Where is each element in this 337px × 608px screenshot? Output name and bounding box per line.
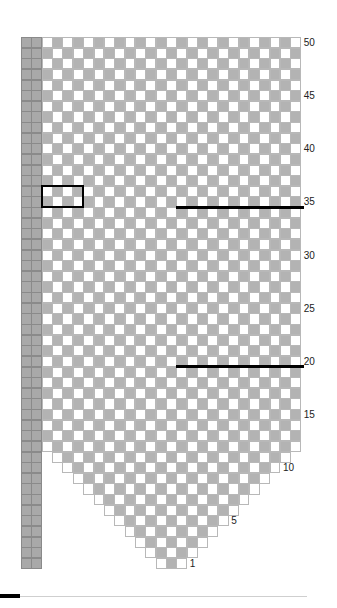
chart-cell — [218, 377, 229, 388]
edge-cell — [21, 441, 32, 452]
chart-cell — [218, 133, 229, 144]
chart-cell — [270, 430, 281, 441]
edge-cell — [21, 473, 32, 484]
chart-cell — [125, 313, 136, 324]
chart-cell — [52, 58, 63, 69]
chart-cell — [42, 420, 53, 431]
chart-cell — [94, 388, 105, 399]
chart-cell — [83, 37, 94, 48]
chart-cell — [114, 239, 125, 250]
chart-cell — [166, 452, 177, 463]
chart-cell — [52, 409, 63, 420]
chart-cell — [135, 228, 146, 239]
chart-cell — [166, 441, 177, 452]
chart-cell — [135, 420, 146, 431]
chart-cell — [166, 239, 177, 250]
chart-cell — [239, 154, 250, 165]
chart-cell — [270, 175, 281, 186]
chart-cell — [42, 133, 53, 144]
chart-cell — [42, 154, 53, 165]
chart-cell — [176, 441, 187, 452]
chart-cell — [290, 260, 301, 271]
chart-cell — [83, 186, 94, 197]
chart-cell — [42, 239, 53, 250]
chart-cell — [125, 207, 136, 218]
chart-cell — [280, 48, 291, 59]
chart-cell — [145, 101, 156, 112]
chart-cell — [52, 356, 63, 367]
chart-cell — [125, 420, 136, 431]
chart-cell — [197, 398, 208, 409]
chart-cell — [249, 292, 260, 303]
chart-cell — [259, 345, 270, 356]
chart-cell — [197, 303, 208, 314]
chart-cell — [83, 196, 94, 207]
chart-cell — [197, 90, 208, 101]
chart-cell — [228, 80, 239, 91]
chart-cell — [62, 154, 73, 165]
chart-cell — [259, 367, 270, 378]
chart-cell — [156, 186, 167, 197]
chart-cell — [104, 69, 115, 80]
chart-cell — [104, 367, 115, 378]
chart-cell — [187, 260, 198, 271]
chart-cell — [83, 367, 94, 378]
chart-cell — [239, 398, 250, 409]
chart-cell — [166, 345, 177, 356]
chart-cell — [114, 430, 125, 441]
chart-cell — [83, 324, 94, 335]
edge-cell — [31, 356, 42, 367]
chart-cell — [207, 377, 218, 388]
chart-cell — [42, 58, 53, 69]
chart-cell — [249, 186, 260, 197]
chart-cell — [104, 505, 115, 516]
chart-cell — [218, 420, 229, 431]
chart-cell — [52, 388, 63, 399]
edge-cell — [31, 281, 42, 292]
chart-cell — [94, 292, 105, 303]
chart-cell — [249, 207, 260, 218]
chart-cell — [259, 133, 270, 144]
edge-cell — [21, 228, 32, 239]
chart-cell — [249, 388, 260, 399]
chart-cell — [52, 37, 63, 48]
chart-cell — [135, 186, 146, 197]
edge-cell — [31, 207, 42, 218]
chart-cell — [239, 324, 250, 335]
edge-cell — [31, 505, 42, 516]
edge-cell — [21, 186, 32, 197]
chart-cell — [228, 260, 239, 271]
chart-cell — [249, 218, 260, 229]
chart-cell — [280, 260, 291, 271]
chart-cell — [125, 69, 136, 80]
chart-cell — [156, 111, 167, 122]
row-number-label: 1 — [190, 559, 196, 569]
chart-cell — [290, 165, 301, 176]
chart-cell — [114, 133, 125, 144]
edge-cell — [21, 313, 32, 324]
chart-cell — [239, 250, 250, 261]
chart-cell — [94, 420, 105, 431]
chart-cell — [114, 281, 125, 292]
chart-cell — [259, 207, 270, 218]
chart-cell — [156, 505, 167, 516]
chart-cell — [156, 303, 167, 314]
chart-cell — [94, 324, 105, 335]
chart-cell — [42, 143, 53, 154]
chart-cell — [207, 441, 218, 452]
chart-cell — [290, 228, 301, 239]
chart-cell — [42, 48, 53, 59]
chart-cell — [166, 228, 177, 239]
edge-cell — [21, 69, 32, 80]
chart-cell — [270, 239, 281, 250]
chart-cell — [166, 558, 177, 569]
chart-cell — [166, 462, 177, 473]
edge-cell — [31, 388, 42, 399]
chart-cell — [135, 292, 146, 303]
chart-cell — [270, 452, 281, 463]
chart-cell — [166, 175, 177, 186]
chart-cell — [290, 313, 301, 324]
chart-cell — [135, 250, 146, 261]
chart-cell — [166, 250, 177, 261]
chart-cell — [104, 228, 115, 239]
